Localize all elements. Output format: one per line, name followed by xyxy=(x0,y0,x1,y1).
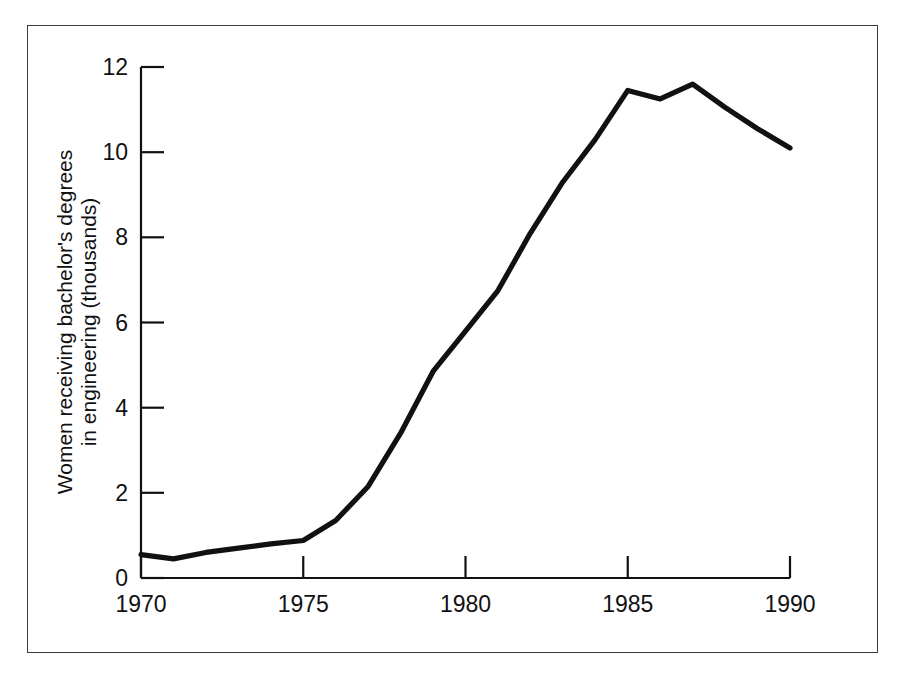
x-tick-label: 1985 xyxy=(602,591,653,617)
x-tick-label: 1975 xyxy=(278,591,329,617)
y-tick-label: 12 xyxy=(102,54,128,80)
y-axis-title-line1: Women receiving bachelor's degrees xyxy=(53,150,76,494)
y-tick-label: 8 xyxy=(115,224,128,250)
y-axis-title-line2: in engineering (thousands) xyxy=(77,198,100,447)
y-tick-labels: 0 2 4 6 8 10 12 xyxy=(102,54,128,591)
y-tick-label: 2 xyxy=(115,480,128,506)
y-tick-label: 10 xyxy=(102,139,128,165)
x-tick-label: 1970 xyxy=(115,591,166,617)
y-tick-label: 0 xyxy=(115,565,128,591)
line-chart: 0 2 4 6 8 10 12 1970 1975 1980 1985 1990… xyxy=(0,0,905,685)
x-tick-labels: 1970 1975 1980 1985 1990 xyxy=(115,591,815,617)
x-axis-ticks xyxy=(141,556,790,578)
x-tick-label: 1990 xyxy=(764,591,815,617)
y-axis-ticks xyxy=(141,67,164,578)
x-tick-label: 1980 xyxy=(440,591,491,617)
figure-page: 0 2 4 6 8 10 12 1970 1975 1980 1985 1990… xyxy=(0,0,905,685)
data-series-line xyxy=(141,84,790,559)
y-tick-label: 4 xyxy=(115,395,128,421)
y-axis-title: Women receiving bachelor's degrees in en… xyxy=(53,150,100,494)
y-tick-label: 6 xyxy=(115,310,128,336)
